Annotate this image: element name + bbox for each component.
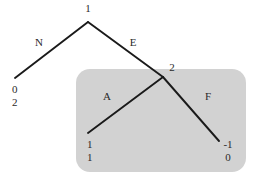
payoff-left-player2: 2 (12, 96, 18, 108)
action-label-e: E (130, 36, 137, 48)
payoff-a-player1: 1 (87, 138, 93, 150)
information-set-region (76, 69, 246, 172)
action-label-a: A (103, 90, 111, 102)
node-label-player2: 2 (169, 61, 175, 73)
payoff-f-player1: -1 (223, 138, 232, 150)
action-label-f: F (205, 90, 211, 102)
payoff-f-player2: 0 (225, 151, 231, 163)
edge-branch-n (15, 22, 88, 78)
payoff-left-player1: 0 (12, 83, 18, 95)
node-label-root: 1 (85, 2, 91, 14)
game-tree-diagram: 1 2 N E A F 0 2 1 1 -1 0 (0, 0, 255, 180)
edge-branch-e (88, 22, 163, 77)
payoff-a-player2: 1 (87, 151, 93, 163)
game-tree-canvas: 1 2 N E A F 0 2 1 1 -1 0 (0, 0, 255, 180)
action-label-n: N (35, 36, 43, 48)
